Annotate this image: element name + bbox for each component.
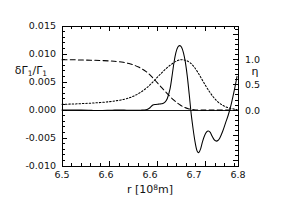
y-tick-label-left: 0.000 [29, 104, 56, 115]
y-tick-label-left: 0.015 [29, 20, 56, 31]
x-tick-label: 6.6 [98, 169, 113, 180]
x-tick-label: 6.8 [230, 169, 245, 180]
figure-container: 6.56.66.66.76.8-0.010-0.0050.0000.0050.0… [0, 0, 283, 210]
y-tick-label-right: 0.5 [245, 79, 260, 90]
y-tick-label-left: -0.010 [25, 160, 56, 171]
x-axis-label: r [108m] [127, 183, 173, 196]
y-axis-label-left: δΓ1/Γ1 [15, 64, 48, 79]
data-curves [62, 46, 237, 153]
curve-delta-Gamma-over-Gamma [62, 46, 237, 153]
chart-svg: 6.56.66.66.76.8-0.010-0.0050.0000.0050.0… [0, 0, 283, 210]
axis-frame [62, 26, 238, 166]
x-tick-label: 6.7 [186, 169, 201, 180]
x-tick-label: 6.6 [142, 169, 157, 180]
y-tick-label-left: -0.005 [25, 132, 56, 143]
y-tick-label-right: 0.0 [245, 105, 260, 116]
y-axis-label-right: η [252, 65, 259, 78]
x-tick-label: 6.5 [54, 169, 69, 180]
y-tick-label-right: 1.0 [245, 54, 260, 65]
tick-labels: 6.56.66.66.76.8-0.010-0.0050.0000.0050.0… [25, 20, 260, 180]
curve-eta-dotted [62, 60, 237, 110]
tick-marks [62, 26, 238, 166]
y-tick-label-left: 0.010 [29, 48, 56, 59]
